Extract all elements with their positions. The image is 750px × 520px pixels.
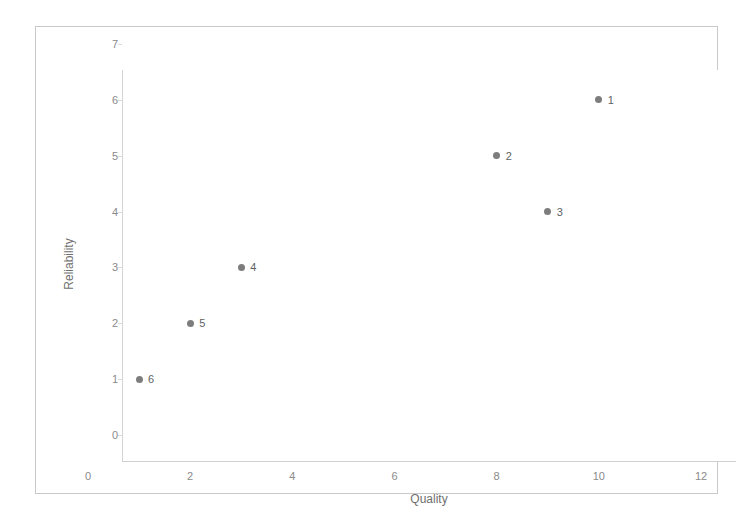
y-tick-mark bbox=[118, 267, 122, 268]
y-tick-label: 5 bbox=[96, 151, 118, 162]
data-point-label: 2 bbox=[506, 151, 512, 162]
y-axis-title: Reliability bbox=[62, 214, 76, 314]
y-tick-mark bbox=[118, 100, 122, 101]
x-tick-label: 6 bbox=[375, 471, 415, 482]
scatter-chart-figure: 01234567 024681012 123456 Quality Reliab… bbox=[0, 0, 750, 520]
x-tick-label: 10 bbox=[579, 471, 619, 482]
y-tick-mark bbox=[118, 156, 122, 157]
data-point-label: 6 bbox=[148, 374, 154, 385]
y-tick-label: 6 bbox=[96, 95, 118, 106]
y-tick-mark bbox=[118, 379, 122, 380]
y-tick-label: 1 bbox=[96, 374, 118, 385]
x-axis-line bbox=[122, 461, 736, 462]
data-point-label: 5 bbox=[199, 318, 205, 329]
figure-border: 01234567 024681012 123456 Quality Reliab… bbox=[35, 26, 718, 494]
data-point bbox=[187, 320, 194, 327]
y-tick-mark bbox=[118, 435, 122, 436]
data-point bbox=[136, 376, 143, 383]
y-tick-label: 2 bbox=[96, 318, 118, 329]
x-tick-label: 8 bbox=[477, 471, 517, 482]
y-tick-label: 4 bbox=[96, 207, 118, 218]
y-tick-label: 0 bbox=[96, 430, 118, 441]
y-axis-line bbox=[122, 70, 123, 462]
x-tick-label: 2 bbox=[170, 471, 210, 482]
data-point-label: 1 bbox=[608, 95, 614, 106]
x-tick-label: 12 bbox=[681, 471, 721, 482]
plot-area bbox=[123, 70, 736, 461]
y-tick-label: 3 bbox=[96, 262, 118, 273]
y-tick-label: 7 bbox=[96, 39, 118, 50]
x-tick-label: 0 bbox=[68, 471, 108, 482]
data-point-label: 4 bbox=[250, 262, 256, 273]
x-tick-label: 4 bbox=[272, 471, 312, 482]
y-axis-tick-labels: 01234567 bbox=[88, 27, 118, 520]
data-point-label: 3 bbox=[557, 207, 563, 218]
y-tick-mark bbox=[118, 323, 122, 324]
y-tick-mark bbox=[118, 44, 122, 45]
y-tick-mark bbox=[118, 212, 122, 213]
data-point bbox=[238, 264, 245, 271]
x-axis-title: Quality bbox=[379, 492, 479, 506]
